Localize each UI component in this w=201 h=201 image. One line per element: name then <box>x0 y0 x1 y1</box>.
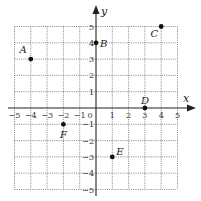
x-tick-label: 5 <box>175 111 180 120</box>
x-tick-label: −2 <box>58 111 70 120</box>
y-tick-label: 2 <box>89 71 94 80</box>
y-tick-label: −3 <box>82 153 94 162</box>
point-label: F <box>59 129 68 140</box>
x-axis-arrow-icon <box>187 105 196 112</box>
point-marker <box>159 24 164 29</box>
x-tick-label: 2 <box>126 111 131 120</box>
y-tick-label: −1 <box>82 120 94 129</box>
point-marker <box>110 155 115 160</box>
y-axis-label: y <box>100 5 108 18</box>
point-marker <box>28 57 33 62</box>
x-axis-label: x <box>183 92 190 105</box>
point-label: B <box>99 38 107 49</box>
axes: x y <box>8 5 196 196</box>
x-tick-label: −1 <box>74 111 86 120</box>
point-marker <box>94 40 99 45</box>
point-marker <box>61 122 66 127</box>
x-tick-label: −5 <box>9 111 21 120</box>
x-tick-label: 1 <box>110 111 115 120</box>
y-tick-label: −4 <box>82 169 94 178</box>
y-tick-label: −2 <box>82 137 94 146</box>
y-tick-label: 4 <box>89 39 94 48</box>
x-tick-label: 0 <box>87 111 92 120</box>
x-tick-label: 4 <box>159 111 164 120</box>
point-label: A <box>19 44 27 55</box>
point-label: C <box>151 28 159 39</box>
y-tick-label: 5 <box>89 23 94 32</box>
y-tick-label: 3 <box>89 55 94 64</box>
x-tick-label: 3 <box>142 111 147 120</box>
x-tick-label: −4 <box>25 111 37 120</box>
point-c: C <box>151 24 164 38</box>
point-marker <box>143 106 148 111</box>
y-tick-label: 1 <box>89 88 94 97</box>
point-label: D <box>140 95 149 106</box>
x-tick-label: −3 <box>41 111 53 120</box>
y-tick-label: −5 <box>82 186 94 195</box>
coordinate-plane: x y −5−4−3−2−101234554321−1−2−3−4−5 ABCD… <box>0 0 201 201</box>
point-f: F <box>59 122 68 140</box>
point-label: E <box>115 146 124 157</box>
y-axis-arrow-icon <box>93 5 100 14</box>
